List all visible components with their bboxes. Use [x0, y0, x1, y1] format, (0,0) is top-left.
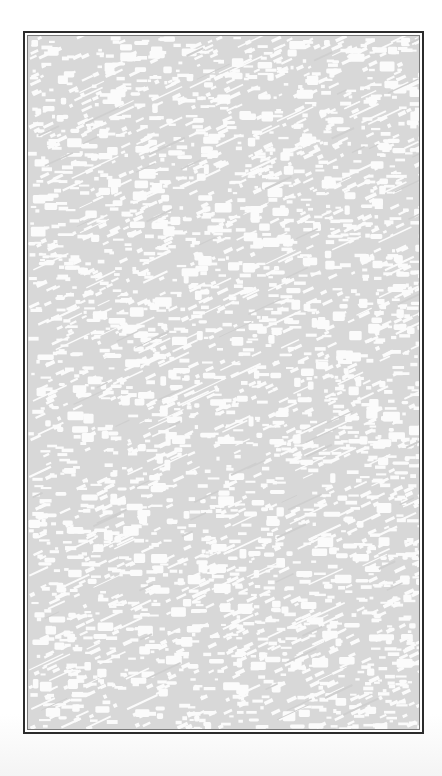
noise-texture-image	[28, 36, 419, 729]
textured-panel-surface	[27, 35, 420, 730]
framed-panel	[23, 31, 424, 734]
page-background	[0, 0, 442, 776]
